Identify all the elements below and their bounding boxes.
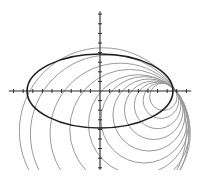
coordinate-axes: [9, 11, 191, 169]
ellipse-circle-family-diagram: [0, 0, 201, 178]
